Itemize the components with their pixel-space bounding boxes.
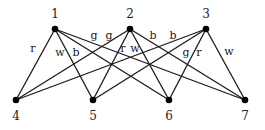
node-label-7: 7	[241, 109, 249, 123]
edge-color-label: w	[55, 46, 65, 59]
edge-3-7	[206, 29, 245, 100]
edge-color-label: b	[149, 29, 156, 42]
node-5	[90, 97, 97, 104]
edge-color-label: r	[120, 42, 126, 55]
node-label-5: 5	[89, 109, 97, 123]
edges-group	[16, 29, 245, 100]
node-2	[127, 26, 134, 33]
graph-canvas: 1234567 rwbggrwbbgrw	[0, 0, 265, 130]
nodes-group	[13, 26, 249, 104]
node-3	[203, 26, 210, 33]
node-label-1: 1	[51, 7, 59, 21]
edge-color-label: g	[182, 46, 189, 59]
edge-color-label: b	[72, 46, 79, 59]
edge-color-label: r	[30, 42, 36, 55]
edge-color-label: g	[105, 29, 112, 42]
node-label-2: 2	[126, 7, 134, 21]
edge-color-label: g	[90, 29, 97, 42]
node-7	[242, 97, 249, 104]
node-label-6: 6	[165, 109, 173, 123]
node-4	[13, 97, 20, 104]
edge-color-label: r	[196, 46, 202, 59]
node-label-4: 4	[12, 109, 20, 123]
node-1	[52, 26, 59, 33]
edge-color-label: b	[169, 29, 176, 42]
node-labels-group: 1234567	[12, 7, 249, 123]
node-6	[166, 97, 173, 104]
node-label-3: 3	[202, 7, 210, 21]
bipartite-graph-diagram: 1234567 rwbggrwbbgrw	[0, 0, 265, 130]
edge-color-label: w	[224, 45, 234, 58]
edge-1-4	[16, 29, 55, 100]
edge-color-label: w	[130, 42, 140, 55]
